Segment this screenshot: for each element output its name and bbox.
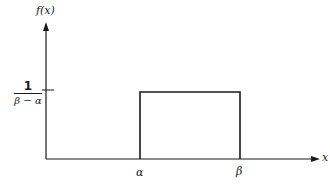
y-axis-label: f(x) (36, 5, 55, 16)
y-axis-arrow-icon (43, 22, 49, 31)
y-tick-label: 1 β − α (14, 80, 42, 107)
fraction-bar (14, 93, 42, 94)
x-axis-arrow-icon (311, 156, 320, 162)
x-axis-label: x (322, 152, 328, 163)
density-rectangle (140, 92, 240, 159)
x-tick-beta: β (236, 166, 242, 177)
x-tick-alpha: α (136, 167, 143, 178)
y-tick-numerator: 1 (14, 80, 42, 92)
y-tick-denominator: β − α (14, 95, 42, 107)
uniform-pdf-plot (0, 0, 330, 185)
